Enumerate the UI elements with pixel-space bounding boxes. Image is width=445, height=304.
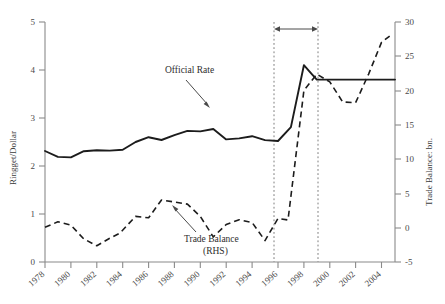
trade-balance-rhs-label: (RHS) — [203, 246, 228, 257]
y-tick-2: 2 — [31, 161, 36, 171]
x-tick-1994: 1994 — [233, 269, 253, 289]
series-trade-balance — [45, 34, 392, 246]
x-tick-1986: 1986 — [130, 269, 150, 289]
series-official-rate — [45, 65, 395, 157]
x-tick-1984: 1984 — [104, 269, 124, 289]
x-tick-1982: 1982 — [78, 269, 98, 288]
exchange-rate-trade-balance-chart: 0 1 2 3 4 5 Ringget/Dollar -5 0 5 10 15 … — [0, 0, 445, 304]
y2-tick-0: 0 — [405, 223, 410, 233]
x-tick-1998: 1998 — [285, 269, 305, 289]
x-tick-2004: 2004 — [363, 269, 383, 289]
y-tick-1: 1 — [31, 209, 36, 219]
x-tick-1992: 1992 — [207, 269, 227, 288]
right-axis: -5 0 5 10 15 20 25 30 Trade Balance: bn. — [395, 17, 434, 267]
y2-tick-5: 5 — [405, 189, 410, 199]
x-tick-1988: 1988 — [156, 269, 176, 289]
x-tick-1978: 1978 — [26, 269, 46, 289]
x-tick-2000: 2000 — [311, 269, 331, 289]
y2-tick-25: 25 — [405, 51, 415, 61]
x-axis: 1978 1980 1982 1984 1986 1988 1990 1992 … — [26, 262, 395, 289]
x-tick-1980: 1980 — [52, 269, 72, 289]
vertical-marker-lines — [274, 22, 318, 262]
chart-container: 0 1 2 3 4 5 Ringget/Dollar -5 0 5 10 15 … — [0, 0, 445, 304]
y-tick-3: 3 — [31, 113, 36, 123]
y-tick-4: 4 — [31, 65, 36, 75]
y2-axis-title: Trade Balance: bn. — [424, 138, 434, 206]
trade-balance-label: Trade Balance — [184, 234, 239, 244]
official-rate-annotation: Official Rate — [165, 65, 214, 108]
peg-band-arrow — [274, 26, 318, 32]
y2-tick-20: 20 — [405, 86, 415, 96]
x-tick-1996: 1996 — [259, 269, 279, 289]
x-tick-1990: 1990 — [182, 269, 202, 289]
y2-tick-30: 30 — [405, 17, 415, 27]
official-rate-label: Official Rate — [165, 65, 214, 75]
y-axis-title: Ringget/Dollar — [8, 131, 18, 185]
left-axis: 0 1 2 3 4 5 Ringget/Dollar — [8, 17, 45, 267]
trade-balance-annotation: Trade Balance (RHS) — [172, 205, 239, 257]
y-tick-0: 0 — [31, 257, 36, 267]
y2-tick-15: 15 — [405, 120, 415, 130]
x-tick-2002: 2002 — [337, 269, 357, 288]
y2-tick-10: 10 — [405, 154, 415, 164]
y2-tick-minus5: -5 — [405, 257, 413, 267]
y-tick-5: 5 — [31, 17, 36, 27]
